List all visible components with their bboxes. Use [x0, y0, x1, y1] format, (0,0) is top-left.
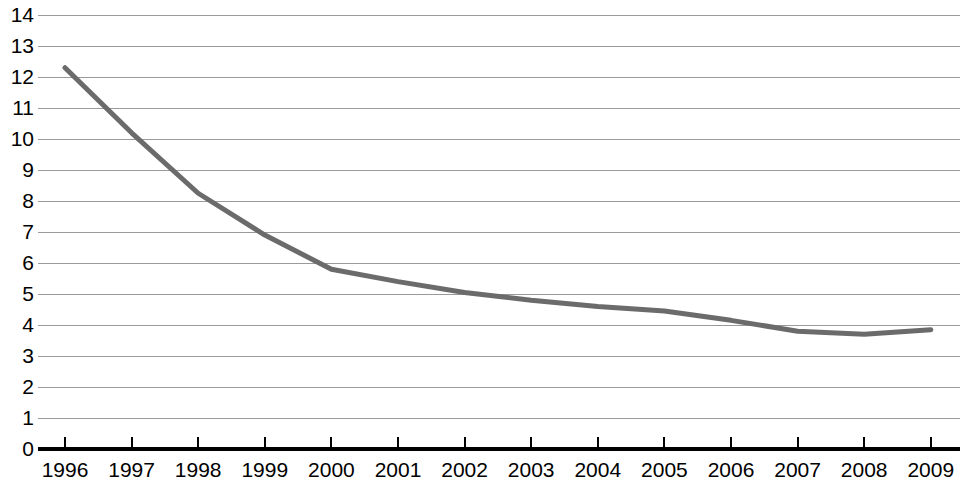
- x-tick: [530, 437, 532, 448]
- y-tick-label: 11: [0, 97, 34, 118]
- gridline: [38, 201, 960, 202]
- x-tick: [264, 437, 266, 448]
- x-axis: 1996199719981999200020012002200320042005…: [0, 458, 967, 492]
- y-tick-label: 4: [0, 314, 34, 335]
- gridline: [38, 418, 960, 419]
- gridline: [38, 232, 960, 233]
- y-tick-label: 7: [0, 221, 34, 242]
- gridline: [38, 77, 960, 78]
- x-tick: [863, 437, 865, 448]
- x-axis-line: [38, 447, 960, 451]
- y-tick-label: 5: [0, 283, 34, 304]
- y-tick-label: 6: [0, 252, 34, 273]
- gridline: [38, 263, 960, 264]
- gridline: [38, 46, 960, 47]
- gridline: [38, 356, 960, 357]
- x-tick: [930, 437, 932, 448]
- y-tick-label: 3: [0, 345, 34, 366]
- y-tick-label: 0: [0, 438, 34, 459]
- y-tick-label: 10: [0, 128, 34, 149]
- gridline: [38, 294, 960, 295]
- x-tick: [397, 437, 399, 448]
- x-tick: [131, 437, 133, 448]
- y-tick-label: 12: [0, 66, 34, 87]
- x-tick-label: 2009: [891, 458, 967, 482]
- gridline: [38, 15, 960, 16]
- y-tick-label: 2: [0, 376, 34, 397]
- y-axis: 01234567891011121314: [0, 0, 34, 496]
- gridline: [38, 139, 960, 140]
- x-tick: [597, 437, 599, 448]
- x-tick: [464, 437, 466, 448]
- y-tick-label: 14: [0, 4, 34, 25]
- x-tick: [730, 437, 732, 448]
- line-chart: 01234567891011121314 1996199719981999200…: [0, 0, 967, 496]
- y-tick-label: 13: [0, 35, 34, 56]
- gridline: [38, 387, 960, 388]
- x-tick: [330, 437, 332, 448]
- y-tick-label: 8: [0, 190, 34, 211]
- y-tick-label: 1: [0, 407, 34, 428]
- x-tick: [663, 437, 665, 448]
- gridline: [38, 170, 960, 171]
- x-tick: [64, 437, 66, 448]
- y-tick-label: 9: [0, 159, 34, 180]
- gridline: [38, 108, 960, 109]
- plot-area: [38, 0, 960, 450]
- x-tick: [197, 437, 199, 448]
- gridline: [38, 325, 960, 326]
- x-tick: [797, 437, 799, 448]
